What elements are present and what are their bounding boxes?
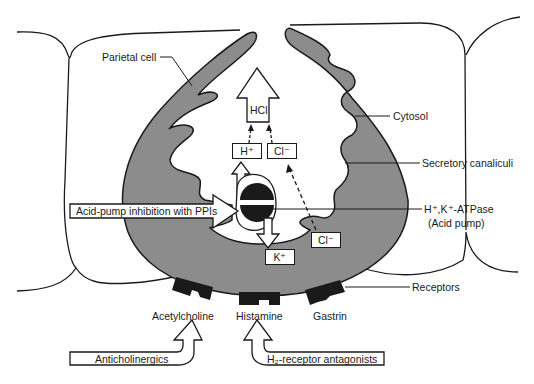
cytosol-label: Cytosol — [393, 110, 428, 122]
gastrin-label: Gastrin — [313, 310, 347, 322]
h2-antagonists-label: H₂-receptor antagonists — [267, 353, 377, 365]
acetylcholine-label: Acetylcholine — [152, 310, 214, 322]
parietal-cell-diagram — [0, 0, 534, 384]
receptor-histamine — [239, 292, 280, 305]
ppi-label: Acid-pump inhibition with PPIs — [76, 205, 217, 217]
anticholinergics-label: Anticholinergics — [95, 353, 169, 365]
receptors-label: Receptors — [412, 281, 460, 293]
right-neighbor-cell-top — [466, 17, 520, 55]
parietal-cell-label: Parietal cell — [102, 51, 156, 63]
cl-minus-box-bottom: Cl⁻ — [311, 232, 341, 248]
k-plus-box: K⁺ — [265, 249, 295, 265]
hcl-label: HCl — [250, 104, 268, 116]
acid-pump-sublabel: (Acid pump) — [428, 217, 485, 229]
secretory-canaliculi-label: Secretory canaliculi — [422, 157, 513, 169]
h-plus-box: H⁺ — [232, 143, 262, 159]
histamine-label: Histamine — [236, 310, 283, 322]
cl-minus-box-top: Cl⁻ — [267, 143, 297, 159]
left-neighbor-cell-wall — [17, 58, 76, 291]
acid-pump-label: H⁺,K⁺-ATPase — [424, 203, 494, 215]
